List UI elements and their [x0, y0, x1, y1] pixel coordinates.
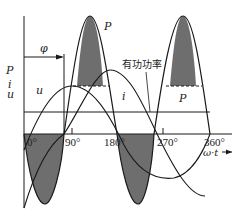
current-label: i — [122, 90, 126, 103]
tick-label-270: 270° — [157, 136, 178, 148]
active-power-leader — [146, 72, 150, 112]
axis-label-u: u — [7, 88, 14, 101]
phase-label: φ — [40, 42, 48, 55]
time-axis-label: ω·t — [203, 147, 219, 158]
power-positive-lobes-shading — [77, 16, 196, 86]
power-waveform-diagram: P i u φ u i P P 有功功率 0° 90° 180° 270° 36… — [0, 0, 248, 218]
phase-arrowhead-icon — [56, 55, 64, 60]
power-label-2: P — [178, 92, 187, 105]
voltage-label: u — [36, 84, 43, 97]
tick-label-180: 180° — [104, 136, 125, 148]
power-negative-lobes-shading — [24, 134, 154, 204]
axis-label-p: P — [5, 64, 14, 77]
arrow-icon — [222, 150, 232, 155]
active-power-label: 有功功率 — [122, 58, 162, 70]
tick-label-90: 90° — [65, 136, 80, 148]
tick-label-0: 0° — [27, 136, 37, 148]
power-label-1: P — [103, 20, 112, 33]
